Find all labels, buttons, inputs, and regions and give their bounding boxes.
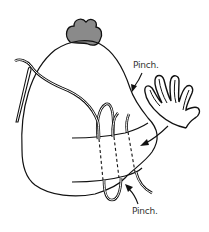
- arrow-pinch-bottom-shaft: [129, 189, 138, 204]
- arrow-pinch-bottom-head: [125, 184, 133, 192]
- thread-tail-bottom-inner: [136, 172, 152, 193]
- chicken-diagram: [0, 0, 209, 232]
- stitch-dashed-1: [99, 139, 103, 180]
- arrow-pinch-top-shaft: [134, 73, 142, 87]
- thread-tail-bottom: [136, 172, 152, 193]
- stitch-band-top: [72, 123, 148, 138]
- illustration: Pinch. Pinch.: [0, 0, 209, 232]
- hand: [145, 76, 200, 129]
- arrow-hand-head: [140, 139, 149, 146]
- stitch-band-bottom: [72, 168, 142, 182]
- pinch-label-bottom: Pinch.: [132, 206, 158, 216]
- stitch-dashed-3: [128, 132, 135, 172]
- comb: [67, 19, 102, 45]
- pinch-label-top: Pinch.: [133, 60, 159, 70]
- arrow-pinch-top-head: [131, 84, 137, 92]
- stitch-dashed-2: [114, 137, 119, 178]
